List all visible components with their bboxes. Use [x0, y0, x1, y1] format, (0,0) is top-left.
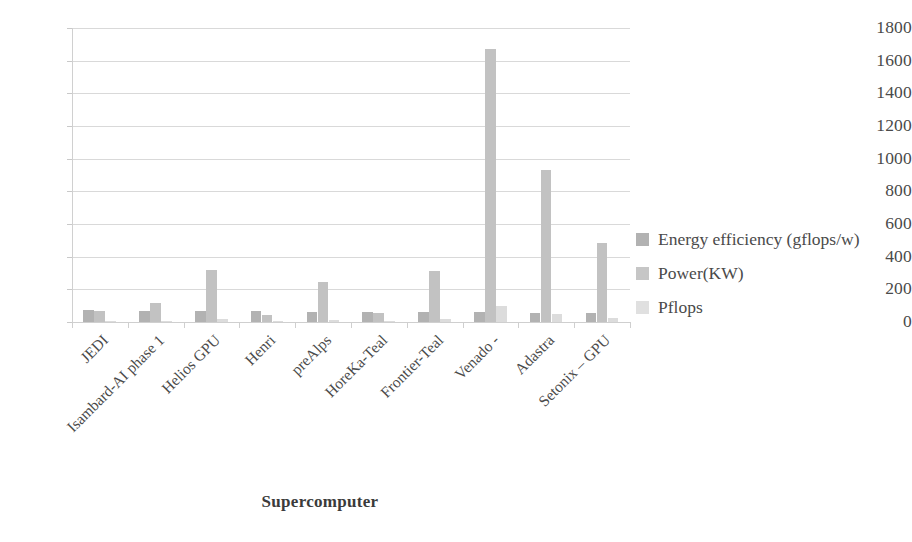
bar: [150, 303, 161, 322]
legend-swatch-icon: [636, 233, 649, 246]
legend-item-pflops[interactable]: Pflops: [636, 290, 908, 324]
bar-group: [530, 28, 563, 322]
bar: [139, 311, 150, 322]
bar: [429, 271, 440, 322]
x-tick-mark: [630, 322, 631, 328]
bar: [206, 270, 217, 322]
bar: [307, 312, 318, 322]
bar-group: [586, 28, 619, 322]
bar-group: [418, 28, 451, 322]
y-tick-mark: [67, 159, 72, 160]
legend-item-energy-efficiency[interactable]: Energy efficiency (gflops/w): [636, 222, 908, 256]
bar: [251, 311, 262, 322]
y-tick-mark: [67, 289, 72, 290]
bar-group: [474, 28, 507, 322]
legend-swatch-icon: [636, 301, 649, 314]
x-tick-label: preAlps: [288, 332, 334, 378]
legend-swatch-icon: [636, 267, 649, 280]
x-tick-label: Adastra: [512, 332, 557, 377]
bar-group: [251, 28, 284, 322]
x-tick-mark: [463, 322, 464, 328]
bar: [195, 311, 206, 322]
y-tick-mark: [67, 257, 72, 258]
bar: [418, 312, 429, 322]
bar: [485, 49, 496, 322]
x-tick-mark: [184, 322, 185, 328]
x-tick-label: Isambard-AI phase 1: [64, 332, 167, 435]
y-tick-mark: [67, 93, 72, 94]
y-tick-mark: [67, 126, 72, 127]
bar: [586, 313, 597, 322]
bar: [373, 313, 384, 322]
x-tick-label: JEDI: [77, 332, 111, 366]
x-tick-label: Venado -: [451, 332, 502, 383]
bar: [474, 312, 485, 322]
bar: [597, 243, 608, 322]
y-tick-label: 1800: [854, 19, 912, 37]
bar: [496, 306, 507, 322]
y-tick-label: 1400: [854, 84, 912, 102]
y-tick-label: 1200: [854, 117, 912, 135]
x-tick-mark: [574, 322, 575, 328]
x-tick-mark: [351, 322, 352, 328]
legend-item-power[interactable]: Power(KW): [636, 256, 908, 290]
x-tick-mark: [518, 322, 519, 328]
bar: [541, 170, 552, 322]
y-tick-mark: [67, 191, 72, 192]
bar: [262, 315, 273, 322]
bar-group: [83, 28, 116, 322]
bar: [83, 310, 94, 322]
bar: [552, 314, 563, 322]
bar-group: [139, 28, 172, 322]
x-tick-label: Henri: [242, 332, 278, 368]
bar: [318, 282, 329, 322]
bar: [94, 311, 105, 322]
y-tick-mark: [67, 28, 72, 29]
x-tick-mark: [128, 322, 129, 328]
y-tick-label: 800: [854, 182, 912, 200]
x-tick-mark: [72, 322, 73, 328]
chart-legend: Energy efficiency (gflops/w) Power(KW) P…: [636, 222, 908, 324]
y-tick-mark: [67, 224, 72, 225]
legend-label: Power(KW): [658, 264, 744, 282]
bar-chart: 180016001400120010008006004002000 JEDIIs…: [0, 0, 912, 542]
x-tick-mark: [295, 322, 296, 328]
bar-group: [362, 28, 395, 322]
x-axis-title: Supercomputer: [0, 492, 640, 512]
x-tick-mark: [407, 322, 408, 328]
bar-group: [195, 28, 228, 322]
x-tick-mark: [239, 322, 240, 328]
y-tick-label: 1600: [854, 52, 912, 70]
y-axis-line: [72, 28, 73, 323]
bar-group: [307, 28, 340, 322]
legend-label: Pflops: [658, 298, 703, 316]
y-tick-label: 1000: [854, 150, 912, 168]
y-tick-mark: [67, 61, 72, 62]
bar: [530, 313, 541, 322]
bar: [362, 312, 373, 322]
legend-label: Energy efficiency (gflops/w): [658, 230, 860, 248]
